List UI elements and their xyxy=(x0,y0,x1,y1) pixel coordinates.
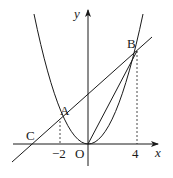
diagram-canvas: y x O −2 4 A B C xyxy=(0,0,173,178)
y-axis-label: y xyxy=(72,6,80,21)
point-label-b: B xyxy=(127,36,136,51)
point-label-a: A xyxy=(60,103,70,118)
tick-label-neg2: −2 xyxy=(52,146,66,161)
tick-label-4: 4 xyxy=(132,146,139,161)
line-ab xyxy=(12,37,152,162)
coordinate-figure: y x O −2 4 A B C xyxy=(0,0,173,178)
segment-ob xyxy=(88,51,137,144)
point-label-c: C xyxy=(26,128,35,143)
x-axis-label: x xyxy=(154,145,161,160)
origin-label: O xyxy=(75,146,84,161)
